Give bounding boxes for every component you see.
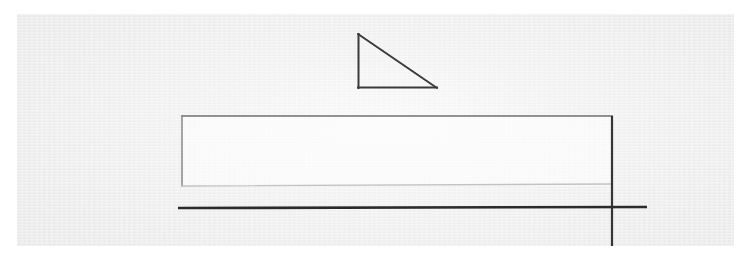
right-triangle-shape [358,34,437,88]
scanned-page [0,0,750,264]
thick-baseline [178,207,647,208]
triangle-hypotenuse [358,34,437,88]
drawing-canvas [17,14,734,246]
line-drawing [17,14,734,246]
paper-sheet [17,14,734,246]
rectangle-bottom-edge [182,184,612,186]
long-rectangle-shape [182,116,612,186]
